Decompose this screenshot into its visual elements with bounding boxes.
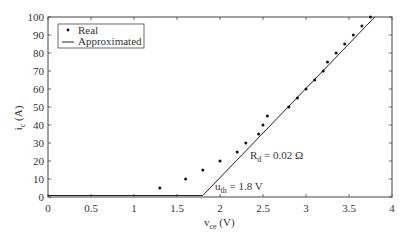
legend: Real Approximated	[58, 24, 144, 48]
data-point	[201, 169, 204, 172]
y-tick-label: 20	[33, 155, 45, 167]
y-tick-label: 90	[33, 29, 45, 41]
legend-approx-label: Approximated	[78, 35, 142, 47]
data-point	[313, 79, 316, 82]
data-point	[352, 34, 355, 37]
legend-real-marker	[67, 29, 70, 32]
x-axis-label: vce (V)	[204, 216, 235, 231]
data-point	[266, 115, 269, 118]
data-point	[184, 178, 187, 181]
data-point	[262, 124, 265, 127]
data-point	[343, 43, 346, 46]
chart: 00.511.522.533.540102030405060708090100 …	[0, 0, 412, 233]
y-tick-label: 100	[28, 11, 45, 23]
y-tick-label: 50	[33, 101, 45, 113]
y-tick-label: 70	[33, 65, 45, 77]
data-point	[296, 97, 299, 100]
y-axis-label: ic (A)	[12, 105, 27, 130]
y-tick-label: 0	[39, 191, 45, 203]
data-point	[369, 16, 372, 19]
data-point	[305, 88, 308, 91]
x-tick-label: 3.5	[342, 202, 356, 214]
x-tick-label: 0	[45, 202, 51, 214]
x-tick-label: 1.5	[170, 202, 184, 214]
data-point	[287, 106, 290, 109]
data-point	[360, 25, 363, 28]
x-tick-label: 2.5	[256, 202, 270, 214]
x-tick-label: 0.5	[84, 202, 98, 214]
y-tick-label: 10	[33, 173, 45, 185]
y-tick-label: 80	[33, 47, 45, 59]
data-point	[335, 52, 338, 55]
x-tick-label: 1	[131, 202, 137, 214]
y-tick-label: 40	[33, 119, 45, 131]
x-tick-label: 4	[389, 202, 395, 214]
data-point	[219, 160, 222, 163]
x-tick-label: 2	[217, 202, 223, 214]
y-tick-label: 60	[33, 83, 45, 95]
y-tick-label: 30	[33, 137, 45, 149]
data-point	[244, 142, 247, 145]
data-point	[322, 70, 325, 73]
data-point	[236, 151, 239, 154]
x-tick-label: 3	[303, 202, 309, 214]
data-point	[257, 133, 260, 136]
data-point	[326, 61, 329, 64]
data-point	[158, 187, 161, 190]
